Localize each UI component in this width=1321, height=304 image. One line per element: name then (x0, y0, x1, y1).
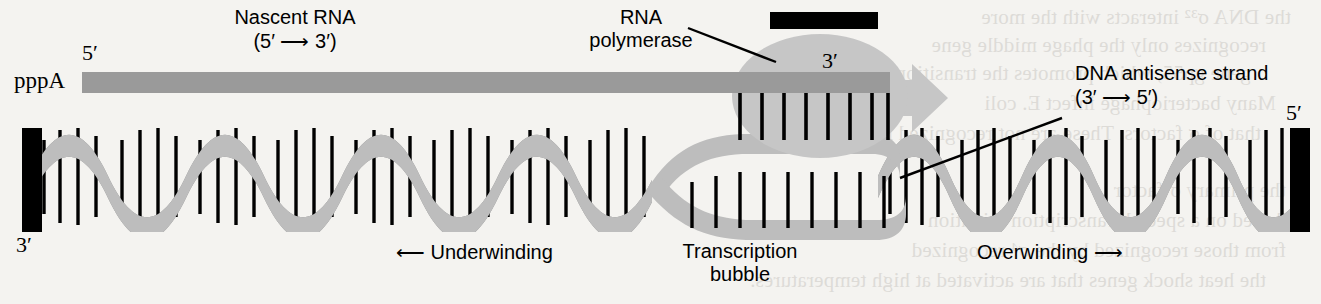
underwinding-label: ⟵ Underwinding (396, 240, 553, 264)
overwinding-label: Overwinding ⟶ (977, 240, 1123, 264)
dna-antisense-title: DNA antisense strand (1075, 62, 1268, 85)
polymerase-top-bar (770, 12, 878, 29)
dna-right-end-bar (1290, 128, 1310, 232)
dna-left-end-bar (22, 128, 42, 232)
nascent-rna-direction: (5′ ⟶ 3′) (200, 29, 390, 53)
nascent-rna-strand (82, 72, 890, 93)
rna-polymerase-line1: RNA (580, 6, 702, 29)
dna-right-5-prime-label: 5′ (1286, 100, 1302, 126)
nascent-rna-label: Nascent RNA (5′ ⟶ 3′) (200, 6, 390, 53)
dna-helix-overwound (878, 128, 1310, 239)
transcription-bubble-graphic (646, 134, 906, 240)
dna-helix-underwound (30, 128, 654, 239)
rna-3-prime-label: 3′ (822, 48, 838, 74)
rna-polymerase-line2: polymerase (580, 29, 702, 52)
dna-antisense-direction: (3′ ⟶ 5′) (1075, 85, 1268, 109)
dna-left-3-prime-label: 3′ (16, 232, 32, 258)
transcription-bubble-line1: Transcription (660, 240, 820, 263)
transcription-bubble-label: Transcription bubble (660, 240, 820, 286)
transcription-diagram: the DNA σ³² interacts with the more reco… (0, 0, 1321, 304)
rna-5-prime-label: 5′ (82, 40, 98, 66)
dna-antisense-strand-label: DNA antisense strand (3′ ⟶ 5′) (1075, 62, 1268, 109)
polymerase-body (732, 34, 908, 158)
dna-light-ribbon-right (878, 135, 1310, 240)
rna-polymerase-label: RNA polymerase (580, 6, 702, 52)
transcription-bubble-line2: bubble (660, 263, 820, 286)
nascent-rna-title: Nascent RNA (200, 6, 390, 29)
nontemplate-strand-bubble (646, 178, 906, 240)
rna-cap-label: pppA (14, 68, 65, 94)
